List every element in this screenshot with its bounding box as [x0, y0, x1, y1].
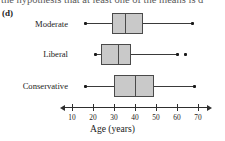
whisker-cap-max-liberal	[176, 53, 179, 56]
plot-area: 10203040506070Age (years)	[0, 0, 225, 141]
x-tick-10	[72, 104, 73, 111]
x-tick-label-10: 10	[64, 113, 80, 122]
axis-arrow-right-icon	[207, 105, 212, 111]
x-tick-40	[135, 104, 136, 111]
x-tick-label-50: 50	[148, 113, 164, 122]
median-line-moderate	[125, 13, 126, 34]
x-tick-50	[156, 104, 157, 111]
x-tick-70	[198, 104, 199, 111]
box-moderate	[112, 13, 144, 34]
x-tick-label-30: 30	[106, 113, 122, 122]
x-axis-title: Age (years)	[0, 123, 225, 134]
x-tick-label-40: 40	[127, 113, 143, 122]
box-liberal	[101, 44, 130, 65]
outlier-liberal-0	[184, 53, 187, 56]
whisker-upper-liberal	[131, 54, 177, 55]
whisker-cap-min-moderate	[84, 22, 87, 25]
whisker-lower-moderate	[85, 23, 112, 24]
axis-arrow-left-icon	[60, 105, 65, 111]
x-tick-label-20: 20	[85, 113, 101, 122]
whisker-lower-conservative	[85, 86, 114, 87]
median-line-conservative	[135, 75, 136, 97]
x-tick-30	[114, 104, 115, 111]
whisker-cap-max-conservative	[193, 85, 196, 88]
whisker-upper-conservative	[154, 86, 194, 87]
whisker-cap-max-moderate	[191, 22, 194, 25]
median-line-liberal	[118, 44, 119, 65]
box-conservative	[114, 75, 154, 97]
x-tick-label-70: 70	[190, 113, 206, 122]
x-tick-60	[177, 104, 178, 111]
boxplot-figure: the hypothesis that at least one of the …	[0, 0, 225, 141]
x-tick-20	[93, 104, 94, 111]
whisker-cap-min-liberal	[94, 53, 97, 56]
whisker-upper-moderate	[143, 23, 191, 24]
whisker-cap-min-conservative	[84, 85, 87, 88]
x-tick-label-60: 60	[169, 113, 185, 122]
x-axis-line	[64, 107, 208, 108]
